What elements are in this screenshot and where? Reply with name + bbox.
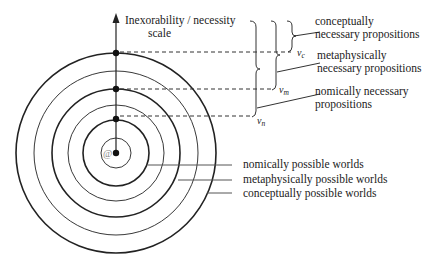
proposition-label-metaphysical-2: necessary propositions (317, 62, 422, 75)
world-label-metaphysical: metaphysically possible worlds (243, 173, 388, 186)
brace-vm (271, 21, 280, 90)
threshold-label-vm: vm (279, 84, 289, 97)
threshold-dot-c (113, 50, 119, 56)
actual-world-dot (113, 150, 119, 156)
proposition-label-nomic-1: nomically necessary (315, 85, 409, 98)
brace-vc (287, 21, 296, 52)
axis-label-line1: Inexorability / necessity (125, 14, 236, 27)
threshold-dot-m (113, 86, 119, 92)
proposition-label-nomic-2: propositions (315, 98, 372, 111)
proposition-label-conceptual-1: conceptually (315, 15, 374, 28)
modal-scale-diagram: @ vc vm vn Inexorability / necessity sca… (0, 0, 428, 263)
threshold-label-vc: vc (297, 47, 305, 60)
threshold-label-vn: vn (257, 115, 265, 128)
actual-world-symbol: @ (103, 148, 112, 159)
proposition-label-metaphysical-1: metaphysically (317, 49, 387, 62)
arrow-up-icon (113, 13, 120, 23)
threshold-dot-n (113, 116, 119, 122)
axis-label-line2: scale (148, 27, 171, 39)
world-label-nomic: nomically possible worlds (243, 158, 364, 171)
brace-vn (250, 21, 260, 117)
proposition-label-conceptual-2: necessary propositions (315, 28, 420, 41)
world-label-conceptual: conceptually possible worlds (243, 187, 377, 200)
